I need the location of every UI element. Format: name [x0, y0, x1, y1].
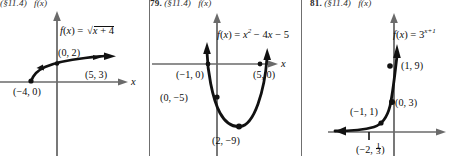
point-marker — [258, 62, 263, 67]
panel-3-point-label-2: (−1, 1) — [350, 106, 378, 117]
panel-3-point-label-1: (0, 3) — [395, 97, 417, 108]
panel-1-graph — [0, 0, 150, 156]
graph-panel-sqrt: (§11.4) f(x) — [0, 0, 150, 156]
direction-arrow — [335, 127, 346, 136]
panel-2-graph — [150, 0, 302, 156]
graph-panel-parabola: 79. (§11.4) f(x) — [150, 0, 302, 156]
panel-2-x-axis-label: x — [281, 58, 286, 69]
point-marker — [28, 78, 33, 83]
fraction-denominator: 3 — [375, 149, 381, 154]
one-third-fraction: 13 — [375, 143, 381, 154]
panel-2-point-label-0: (−1, 0) — [176, 69, 204, 80]
point-marker — [387, 63, 393, 69]
panel-1-equation: f(x) = √x + 4 — [60, 25, 114, 36]
direction-arrow — [263, 48, 271, 60]
panel-2-point-label-3: (2, −9) — [212, 135, 240, 146]
panel-3-equation: f(x) = 3x+1 — [393, 27, 436, 40]
direction-arrow — [203, 42, 211, 54]
point-marker — [55, 61, 60, 66]
panel-1-point-label-2: (−4, 0) — [13, 86, 41, 97]
panel-3-point-label-3: (−2, 13) — [356, 143, 385, 155]
panel-3-point-label-0: (1, 9) — [401, 60, 423, 71]
curve-exponential — [335, 44, 401, 140]
panel-2-point-label-1: (5, 0) — [253, 69, 275, 80]
panel-1-point-label-1: (5, 3) — [85, 69, 107, 80]
panel-1-x-axis-label: x — [131, 76, 136, 87]
figure-page: (§11.4) f(x) — [0, 0, 456, 156]
x-axis — [0, 79, 128, 86]
point-marker — [206, 62, 211, 67]
graph-panel-exponential: 81. (§11.4) f(x) — [302, 0, 456, 156]
point-marker — [236, 124, 242, 130]
point-marker — [378, 120, 383, 125]
panel-2-point-label-2: (0, −5) — [160, 92, 188, 103]
panel-1-point-label-0: (0, 2) — [58, 47, 80, 58]
point-marker — [214, 94, 219, 99]
panel-3-graph — [302, 0, 456, 156]
panel-2-equation: f(x) = x2 − 4x − 5 — [217, 27, 289, 40]
curve-parabola — [203, 42, 271, 130]
